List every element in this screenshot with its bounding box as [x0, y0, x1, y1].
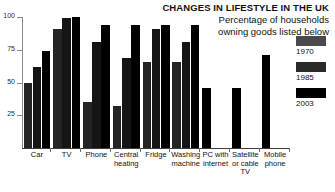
bar: [72, 17, 81, 148]
category-label: PC withinternet: [201, 151, 231, 168]
bar: [83, 102, 92, 148]
chart-title: CHANGES IN LIFESTYLE IN THE UK: [129, 2, 329, 13]
legend-swatch: [296, 36, 326, 46]
bar: [92, 42, 101, 148]
category-label-line: heating: [111, 160, 141, 169]
legend: 197019852003: [296, 36, 332, 114]
bar: [24, 83, 33, 149]
bar: [182, 42, 191, 148]
legend-swatch: [296, 62, 326, 72]
category-label: Mobilephone: [260, 151, 290, 168]
bar: [172, 62, 181, 148]
category-label-line: Fridge: [141, 151, 171, 160]
category-label-line: internet: [201, 160, 231, 169]
category-label: Washingmachine: [171, 151, 201, 168]
x-axis-line: [22, 148, 290, 149]
legend-item-2003: 2003: [296, 88, 332, 112]
y-axis-tick-label: 50: [7, 78, 15, 85]
bar: [143, 62, 152, 148]
bar: [122, 58, 131, 148]
bar: [202, 88, 211, 148]
bar: [42, 51, 51, 148]
category-label: Satelliteor cableTV: [230, 151, 260, 177]
legend-label: 1970: [296, 46, 332, 60]
category-label: Fridge: [141, 151, 171, 160]
bar: [232, 88, 241, 148]
category-label: TV: [52, 151, 82, 160]
bar: [53, 29, 62, 148]
y-axis-tick: 75: [17, 50, 22, 51]
bar: [161, 25, 170, 148]
legend-label: 2003: [296, 98, 332, 112]
legend-label: 1985: [296, 72, 332, 86]
plot-area: 255075100: [22, 17, 290, 148]
category-label-line: Phone: [82, 151, 112, 160]
bar: [62, 18, 71, 148]
category-label: Centralheating: [111, 151, 141, 168]
category-label: Phone: [82, 151, 112, 160]
bar: [262, 55, 271, 148]
bar-chart: CHANGES IN LIFESTYLE IN THE UK Percentag…: [0, 0, 335, 192]
bar: [101, 25, 110, 148]
y-axis-tick: 25: [17, 115, 22, 116]
bar: [113, 106, 122, 148]
bar: [33, 67, 42, 148]
category-labels: CarTVPhoneCentralheatingFridgeWashingmac…: [22, 151, 290, 191]
category-label-line: machine: [171, 160, 201, 169]
legend-item-1970: 1970: [296, 36, 332, 60]
category-label-line: phone: [260, 160, 290, 169]
y-axis-tick-label: 100: [3, 12, 15, 19]
bar: [131, 25, 140, 148]
bar: [191, 25, 200, 148]
category-label-line: TV: [52, 151, 82, 160]
category-label-line: Car: [22, 151, 52, 160]
bar: [152, 29, 161, 148]
y-axis-tick-label: 75: [7, 45, 15, 52]
y-axis-tick-label: 25: [7, 110, 15, 117]
legend-item-1985: 1985: [296, 62, 332, 86]
legend-swatch: [296, 88, 326, 98]
y-axis-tick: 100: [17, 17, 22, 18]
category-label: Car: [22, 151, 52, 160]
y-axis-tick: 50: [17, 83, 22, 84]
category-label-line: TV: [230, 168, 260, 177]
